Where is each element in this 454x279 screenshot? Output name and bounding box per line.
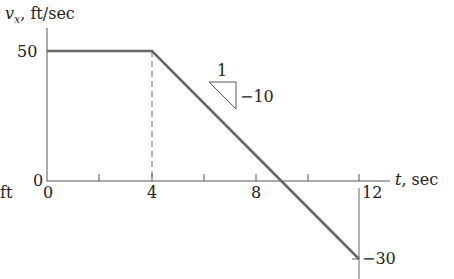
x-ticks [99, 174, 359, 181]
y-axis-label: vx, ft/sec [5, 6, 75, 25]
cropped-text-fragment: ft [0, 185, 12, 201]
slope-triangle [209, 82, 236, 109]
y-value-neg30: −30 [362, 251, 396, 267]
slope-rise-label: −10 [240, 89, 274, 105]
x-tick-8: 8 [251, 185, 261, 201]
x-tick-12: 12 [362, 185, 382, 201]
y-tick-0: 0 [33, 173, 43, 189]
x-tick-4: 4 [147, 185, 157, 201]
y-tick-50: 50 [17, 44, 37, 60]
velocity-curve [47, 51, 359, 259]
x-axis-unit: , sec [401, 170, 438, 189]
x-tick-0: 0 [43, 185, 53, 201]
velocity-time-diagram [0, 0, 454, 279]
y-axis-var: v [5, 4, 14, 23]
x-axis-label: t, sec [395, 172, 438, 188]
y-axis-unit: , ft/sec [20, 4, 75, 23]
slope-run-label: 1 [217, 63, 227, 79]
